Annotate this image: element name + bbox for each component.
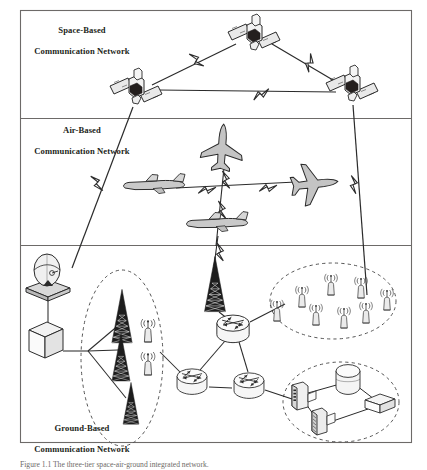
network-diagram-svg bbox=[0, 0, 427, 470]
tier-label-ground-line2: Communication Network bbox=[34, 444, 129, 454]
tier-label-space: Space-Based Communication Network bbox=[16, 14, 148, 56]
tier-label-ground: Ground-Based Communication Network bbox=[16, 412, 148, 454]
tier-label-air-line2: Communication Network bbox=[34, 146, 129, 156]
tier-label-air-line1: Air-Based bbox=[63, 125, 101, 135]
router-top bbox=[217, 315, 249, 343]
tier-label-air: Air-Based Communication Network bbox=[16, 114, 148, 156]
router-bottom-right bbox=[234, 373, 264, 399]
datacenter-storage bbox=[336, 365, 360, 395]
router-bottom-left bbox=[177, 369, 207, 395]
figure-caption: Figure 1.1 The three-tier space-air-grou… bbox=[20, 460, 420, 470]
tier-label-ground-line1: Ground-Based bbox=[54, 423, 109, 433]
figure-container: Space-Based Communication Network Air-Ba… bbox=[0, 0, 427, 470]
tier-label-space-line2: Communication Network bbox=[34, 46, 129, 56]
gateway-server-cube bbox=[29, 322, 63, 358]
tier-label-space-line1: Space-Based bbox=[58, 25, 105, 35]
